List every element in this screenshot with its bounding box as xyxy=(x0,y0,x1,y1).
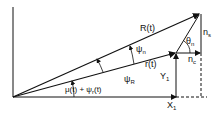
label-Y1: Y1 xyxy=(160,72,169,82)
label-R: R(t) xyxy=(140,24,155,33)
phasor-diagram: R(t) r(t) ψn ψR θn ns nc Y1 X1 μ(t) + ψr… xyxy=(0,0,221,113)
label-mu: μ(t) + ψr(t) xyxy=(65,86,102,95)
label-X1: X1 xyxy=(167,101,176,111)
label-psi-R: ψR xyxy=(124,75,135,85)
label-n-s: ns xyxy=(203,28,211,38)
label-n-c: nc xyxy=(188,55,196,65)
label-theta-n: θn xyxy=(186,37,194,47)
label-psi-n: ψn xyxy=(136,45,146,55)
label-r: r(t) xyxy=(145,60,157,69)
